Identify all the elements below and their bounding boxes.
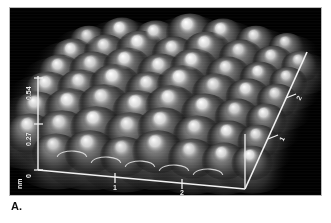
x-axis-line [38,170,245,189]
z-axis-label-054: 0.54 [25,86,32,100]
z-axis-unit-label: nm [16,179,23,190]
figure-caption: A. [11,200,22,212]
x-axis-label-2: 2 [180,189,184,195]
z-axis-label-027: 0.27 [25,132,32,146]
x-axis-label-1: 1 [113,184,117,191]
plot-area: 0.54 0.27 0 nm 1 2 1 2 [10,8,321,195]
plot-frame: 0.54 0.27 0 nm 1 2 1 2 [10,8,321,195]
z-axis-label-0: 0 [25,174,32,178]
depth-axis-line [245,52,307,189]
figure-panel: 0.54 0.27 0 nm 1 2 1 2 A. [0,0,331,223]
axis-overlay [10,8,321,195]
